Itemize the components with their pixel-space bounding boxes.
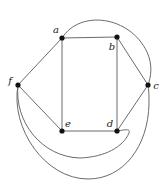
vertex-label-c: c	[153, 80, 159, 91]
vertex-d[interactable]	[114, 128, 119, 133]
vertex-label-f: f	[7, 75, 14, 86]
vertex-label-a: a	[53, 24, 59, 35]
edge-e-f	[18, 85, 62, 131]
edge-c-d	[117, 85, 148, 131]
vertex-labels-group: abcdef	[7, 24, 159, 129]
edge-f-a	[18, 38, 62, 85]
vertex-a[interactable]	[59, 35, 64, 40]
vertex-label-b: b	[109, 41, 115, 52]
vertex-c[interactable]	[145, 82, 150, 87]
vertex-label-e: e	[65, 118, 71, 129]
vertex-b[interactable]	[114, 34, 119, 39]
vertex-label-d: d	[107, 118, 113, 129]
graph-svg: abcdef	[0, 0, 164, 191]
straight-edges-group	[18, 37, 148, 131]
edge-b-c	[117, 37, 148, 85]
graph-figure: abcdef	[0, 0, 164, 191]
edge-a-b	[62, 37, 117, 38]
vertex-f[interactable]	[15, 82, 20, 87]
vertex-e[interactable]	[59, 128, 64, 133]
vertices-group	[15, 34, 150, 133]
edge-arc-a-c	[62, 20, 151, 85]
curved-edges-group	[17, 20, 151, 179]
